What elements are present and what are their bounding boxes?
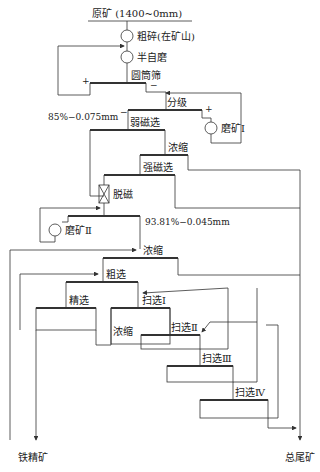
classify-minus: − [120, 107, 128, 118]
classify-plus: + [205, 104, 213, 115]
rougher-label: 粗选 [106, 269, 126, 280]
scav4-label: 扫选Ⅳ [235, 387, 265, 398]
sag-mill-label: 半自磨 [137, 52, 167, 63]
thicken2-label: 浓缩 [143, 245, 163, 256]
scav1-label: 扫选Ⅰ [142, 295, 166, 306]
ball-mill-1-icon [205, 122, 217, 134]
grind2-spec: 93.81%−0.045mm [145, 217, 230, 228]
scav2-label: 扫选Ⅱ [171, 322, 198, 333]
sag-mill-icon [121, 51, 133, 63]
lims-label: 弱磁选 [130, 117, 160, 128]
trommel-minus: − [150, 80, 158, 91]
demag-label: 脱磁 [113, 189, 133, 200]
crusher-icon [121, 30, 133, 42]
mill2-label: 磨矿Ⅱ [65, 225, 92, 236]
cleaner-label: 精选 [69, 295, 89, 306]
concentrate-label: 铁精矿 [18, 452, 48, 463]
tailings-label: 总尾矿 [285, 452, 315, 463]
thicken1-label: 浓缩 [168, 142, 188, 153]
hims-label: 强磁选 [143, 162, 173, 173]
feed-label: 原矿 (1400~0mm) [92, 8, 182, 19]
mill1-label: 磨矿Ⅰ [221, 123, 245, 134]
trommel-plus: + [82, 76, 90, 87]
scav3-label: 扫选Ⅲ [202, 353, 232, 364]
ball-mill-2-icon [49, 224, 61, 236]
coarse-crush-label: 粗碎(在矿山) [137, 31, 195, 42]
grind1-spec: 85%−0.075mm [48, 112, 118, 123]
thicken3-label: 浓缩 [113, 326, 133, 337]
classify-label: 分级 [167, 97, 187, 108]
